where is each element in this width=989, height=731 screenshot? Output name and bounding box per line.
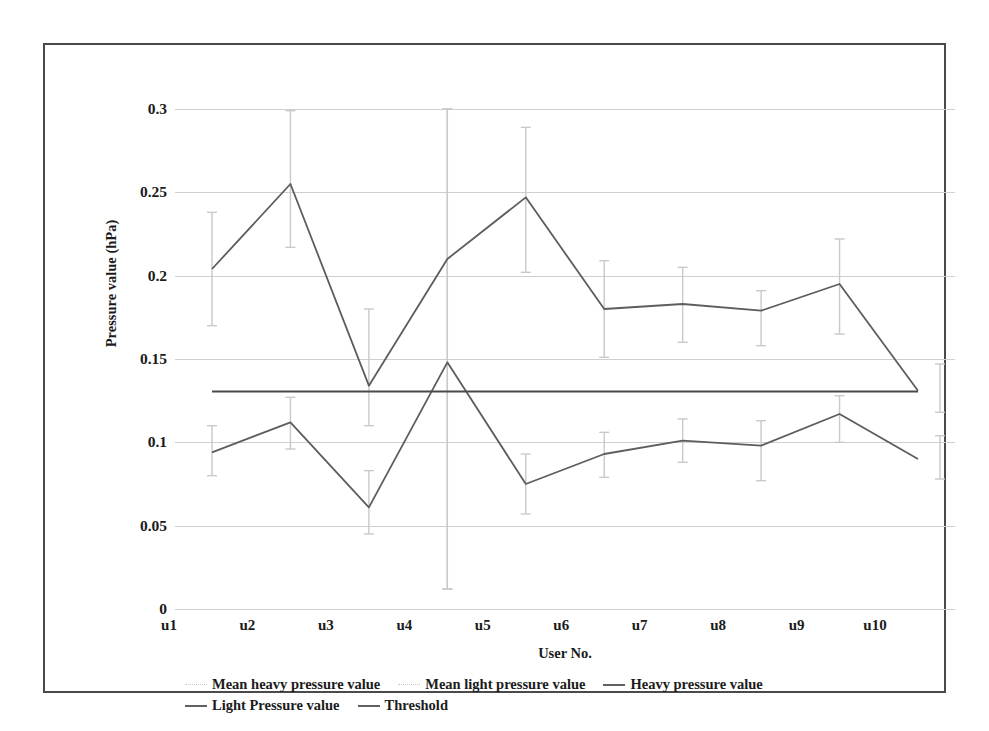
x-tick-label-u1: u1 <box>161 617 177 634</box>
x-tick-label-u9: u9 <box>789 617 805 634</box>
x-tick-label-u5: u5 <box>475 617 491 634</box>
gridline <box>175 609 955 610</box>
y-tick-label: 0.25 <box>140 183 167 201</box>
legend-swatch-icon <box>603 684 625 686</box>
y-tick-label: 0.15 <box>140 350 167 368</box>
x-axis-title: User No. <box>175 645 955 662</box>
y-axis-ticks: 00.050.10.150.20.250.3 <box>93 109 167 609</box>
series-layer <box>175 109 955 609</box>
legend-item: Threshold <box>358 697 448 714</box>
legend-label: Heavy pressure value <box>630 676 762 693</box>
chart-page: Pressure value (hPa) 00.050.10.150.20.25… <box>0 0 989 731</box>
chart-legend: Mean heavy pressure valueMean light pres… <box>185 676 945 718</box>
legend-row: Light Pressure valueThreshold <box>185 697 945 714</box>
legend-swatch-icon <box>398 684 420 685</box>
legend-item: Heavy pressure value <box>603 676 762 693</box>
x-tick-label-u2: u2 <box>240 617 256 634</box>
legend-item: Mean light pressure value <box>398 676 585 693</box>
x-tick-label-u6: u6 <box>553 617 569 634</box>
y-tick-label: 0.1 <box>148 433 167 451</box>
legend-item: Light Pressure value <box>185 697 340 714</box>
legend-label: Mean heavy pressure value <box>212 676 380 693</box>
legend-swatch-icon <box>358 705 380 707</box>
y-tick-label: 0.05 <box>140 517 167 535</box>
x-tick-label-u8: u8 <box>710 617 726 634</box>
x-tick-label-u4: u4 <box>396 617 412 634</box>
legend-label: Mean light pressure value <box>425 676 585 693</box>
x-tick-label-u10: u10 <box>863 617 886 634</box>
legend-swatch-icon <box>185 684 207 685</box>
error-bars-mean-heavy-pressure-value <box>207 109 945 589</box>
legend-swatch-icon <box>185 705 207 707</box>
plot-area <box>175 109 955 609</box>
line-light-pressure-value <box>212 362 918 507</box>
legend-label: Light Pressure value <box>212 697 340 714</box>
line-heavy-pressure-value <box>212 184 918 391</box>
y-tick-label: 0 <box>159 600 167 618</box>
x-tick-label-u3: u3 <box>318 617 334 634</box>
legend-label: Threshold <box>385 697 448 714</box>
legend-row: Mean heavy pressure valueMean light pres… <box>185 676 945 693</box>
chart-frame: Pressure value (hPa) 00.050.10.150.20.25… <box>43 43 946 693</box>
x-tick-label-u7: u7 <box>632 617 648 634</box>
error-bars-mean-light-pressure-value <box>207 109 945 589</box>
y-tick-label: 0.3 <box>148 100 167 118</box>
y-tick-label: 0.2 <box>148 267 167 285</box>
legend-item: Mean heavy pressure value <box>185 676 380 693</box>
